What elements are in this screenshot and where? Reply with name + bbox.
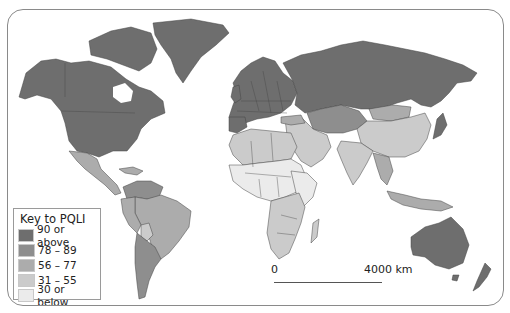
region-iberia <box>229 117 247 133</box>
region-uk <box>231 85 241 103</box>
legend-swatch <box>18 274 35 287</box>
region-greenland <box>153 19 229 83</box>
region-russia <box>283 41 477 113</box>
region-japan <box>433 113 447 139</box>
legend-swatch <box>18 229 34 242</box>
legend-label: 56 – 77 <box>38 259 77 272</box>
scale-line <box>274 282 382 283</box>
region-tasmania <box>452 275 459 281</box>
region-australia <box>411 217 469 269</box>
scale-end-label: 4000 km <box>364 263 413 276</box>
scale-start-label: 0 <box>271 263 278 276</box>
legend-swatch <box>18 244 35 257</box>
legend-item: 30 or below <box>18 288 96 303</box>
region-madagascar <box>311 219 319 243</box>
legend-swatch <box>18 289 34 302</box>
map-frame: Key to PQLI 90 or above 78 – 89 56 – 77 … <box>7 9 504 306</box>
legend-swatch <box>18 259 35 272</box>
region-central-southern-africa <box>267 193 305 259</box>
region-mexico-central-america <box>69 151 121 195</box>
region-india <box>337 141 373 185</box>
legend-label: 30 or below <box>37 283 96 307</box>
region-caribbean <box>119 167 143 175</box>
legend: Key to PQLI 90 or above 78 – 89 56 – 77 … <box>13 208 101 300</box>
legend-item: 90 or above <box>18 228 96 243</box>
region-north-america <box>19 59 165 157</box>
legend-item: 56 – 77 <box>18 258 96 273</box>
scale-bar: 0 4000 km <box>269 263 419 293</box>
region-southeast-asia <box>373 153 393 185</box>
region-turkey <box>281 115 305 125</box>
region-new-zealand <box>473 263 491 291</box>
legend-label: 78 – 89 <box>38 244 77 257</box>
region-indonesia <box>387 191 453 211</box>
